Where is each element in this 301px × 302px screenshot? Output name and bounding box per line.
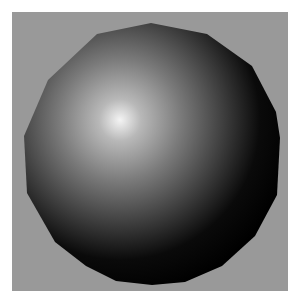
- sphere-render: [0, 0, 301, 302]
- sphere-shape: [24, 23, 280, 285]
